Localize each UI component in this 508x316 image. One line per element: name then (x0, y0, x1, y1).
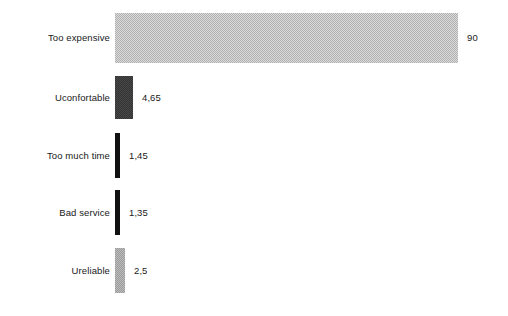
value-label: 1,45 (129, 150, 148, 161)
value-label: 4,65 (142, 92, 161, 103)
bar-chart: Too expensive90Uconfortable4,65Too much … (0, 0, 508, 316)
bar-row: Uconfortable4,65 (0, 76, 508, 119)
category-label: Ureliable (0, 265, 110, 276)
bar-row: Ureliable2,5 (0, 248, 508, 293)
bar-row: Bad service1,35 (0, 190, 508, 235)
bar-2 (115, 76, 133, 119)
bar-row: Too much time1,45 (0, 133, 508, 178)
category-label: Too expensive (0, 32, 110, 43)
bar-1 (115, 13, 458, 63)
category-label: Too much time (0, 150, 110, 161)
bar-5 (115, 248, 125, 293)
value-label: 90 (467, 32, 478, 43)
category-label: Bad service (0, 207, 110, 218)
bar-3 (115, 133, 120, 178)
category-label: Uconfortable (0, 92, 110, 103)
bar-4 (115, 190, 120, 235)
value-label: 2,5 (134, 265, 148, 276)
value-label: 1,35 (129, 207, 148, 218)
bar-row: Too expensive90 (0, 13, 508, 63)
